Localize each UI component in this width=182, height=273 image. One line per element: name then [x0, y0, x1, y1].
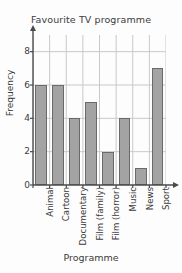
bar: [35, 85, 47, 185]
x-tick-label: Film (family): [95, 187, 105, 240]
x-tick-label: News: [145, 187, 155, 210]
bar: [102, 152, 114, 185]
bar: [119, 118, 131, 185]
bar: [135, 168, 147, 185]
bar: [152, 68, 164, 185]
chart-title: Favourite TV programme: [0, 14, 182, 25]
y-tick-label: 8: [18, 47, 30, 56]
y-tick-label: 6: [18, 81, 30, 90]
x-axis-title: Programme: [0, 252, 182, 263]
x-tick-label: Sport: [161, 187, 171, 210]
bar-chart: Favourite TV programme 02468 Frequency A…: [0, 0, 182, 273]
x-tick-label: Animal: [45, 187, 55, 217]
bar: [85, 102, 97, 185]
bars-layer: [33, 35, 166, 185]
y-tick-label: 2: [18, 147, 30, 156]
y-tick-label: 0: [18, 181, 30, 190]
y-axis-title: Frequency: [5, 61, 15, 125]
bar: [52, 85, 64, 185]
bar: [69, 118, 81, 185]
y-axis-tick-labels: 02468: [16, 35, 30, 185]
x-tick-label: Film (horror): [111, 187, 121, 240]
x-tick-label: Documentary: [78, 187, 88, 245]
x-tick-label: Cartoon: [61, 187, 71, 221]
plot-area: [33, 35, 166, 185]
y-tick-label: 4: [18, 114, 30, 123]
x-axis-tick-labels: AnimalCartoonDocumentaryFilm (family)Fil…: [33, 187, 166, 249]
x-tick-label: Music: [128, 187, 138, 211]
